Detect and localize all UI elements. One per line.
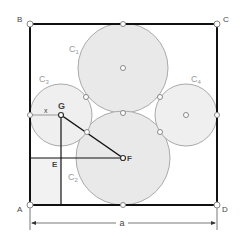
- label-f: F: [127, 154, 132, 163]
- geometry-diagram: a A B C D E F G x C1 C2 C3 C4: [0, 0, 240, 250]
- label-d: D: [222, 205, 228, 214]
- label-b: B: [17, 15, 22, 24]
- arrow-right-icon: [211, 221, 216, 225]
- point-g-marker: [59, 113, 64, 118]
- c4-right-tangent: [215, 113, 220, 118]
- point-d-marker: [214, 202, 220, 208]
- c2-c4-tangent: [158, 130, 163, 135]
- point-f-marker: [121, 156, 126, 161]
- c1-top-tangent: [121, 22, 126, 27]
- label-e: E: [52, 160, 58, 169]
- label-c: C: [223, 15, 229, 24]
- c1-c3-tangent: [84, 95, 89, 100]
- dimension-label: a: [119, 218, 124, 228]
- label-c3: C3: [39, 74, 50, 85]
- arrow-left-icon: [31, 221, 36, 225]
- label-x: x: [44, 107, 48, 114]
- c1-c4-tangent: [158, 95, 163, 100]
- label-c1: C1: [69, 44, 80, 55]
- c1-center: [121, 66, 126, 71]
- label-g: G: [58, 101, 65, 111]
- label-c4: C4: [191, 74, 202, 85]
- point-b-marker: [27, 21, 33, 27]
- label-c2: C2: [68, 172, 79, 183]
- c1-c2-tangent: [121, 111, 126, 116]
- c3-left-tangent: [28, 113, 33, 118]
- label-a: A: [17, 205, 23, 214]
- c2-bottom-tangent: [121, 203, 126, 208]
- point-a-marker: [27, 202, 33, 208]
- c2-c3-tangent: [85, 130, 90, 135]
- point-c-marker: [214, 21, 220, 27]
- c4-center: [184, 113, 189, 118]
